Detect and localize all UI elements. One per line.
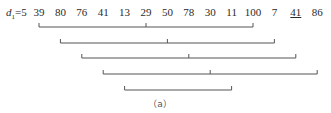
figure-caption: （a）	[148, 97, 172, 110]
group-bracket	[103, 70, 317, 74]
group-bracket	[125, 86, 232, 90]
group-bracket	[39, 23, 253, 27]
shell-sort-diagram: d1=5 3980764113295078301110074186 （a）	[0, 0, 331, 113]
group-bracket	[60, 39, 274, 43]
group-bracket	[82, 54, 296, 58]
